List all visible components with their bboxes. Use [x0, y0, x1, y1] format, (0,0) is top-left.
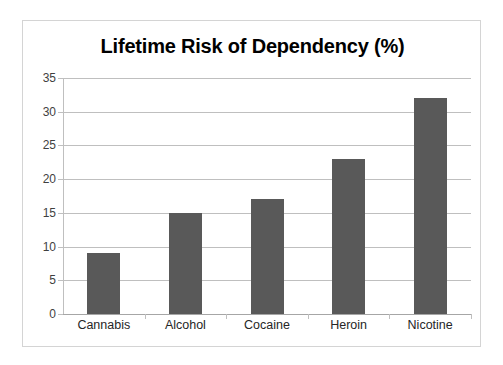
bar[interactable]	[87, 253, 120, 314]
plot-area	[63, 78, 471, 314]
chart-frame: Lifetime Risk of Dependency (%) 05101520…	[22, 20, 481, 347]
y-axis-tick-mark	[58, 247, 63, 248]
bar[interactable]	[251, 199, 284, 314]
y-axis-tick-label: 15	[26, 207, 56, 219]
x-axis-category-label: Cocaine	[226, 319, 308, 332]
y-axis-tick-label: 30	[26, 106, 56, 118]
y-axis-tick-mark	[58, 213, 63, 214]
x-axis-tick-mark	[471, 314, 472, 319]
y-axis-tick-label: 10	[26, 241, 56, 253]
gridline	[63, 314, 471, 315]
y-axis-tick-labels: 05101520253035	[23, 21, 56, 346]
y-axis-tick-mark	[58, 112, 63, 113]
y-axis-tick-mark	[58, 145, 63, 146]
y-axis-tick-label: 25	[26, 139, 56, 151]
y-axis-tick-label: 5	[26, 274, 56, 286]
x-axis-category-label: Nicotine	[389, 319, 471, 332]
x-axis-category-label: Alcohol	[145, 319, 227, 332]
y-axis-tick-mark	[58, 78, 63, 79]
y-axis-tick-mark	[58, 280, 63, 281]
x-axis-category-label: Cannabis	[63, 319, 145, 332]
y-axis-tick-label: 20	[26, 173, 56, 185]
bar[interactable]	[169, 213, 202, 314]
y-axis-tick-mark	[58, 179, 63, 180]
gridline	[63, 112, 471, 113]
y-axis-tick-label: 0	[26, 308, 56, 320]
bar[interactable]	[332, 159, 365, 314]
y-axis-tick-mark	[58, 314, 63, 315]
gridline	[63, 179, 471, 180]
y-axis-tick-label: 35	[26, 72, 56, 84]
bar[interactable]	[414, 98, 447, 314]
x-axis-category-label: Heroin	[308, 319, 390, 332]
gridline	[63, 145, 471, 146]
gridline	[63, 78, 471, 79]
chart-title: Lifetime Risk of Dependency (%)	[23, 35, 482, 58]
